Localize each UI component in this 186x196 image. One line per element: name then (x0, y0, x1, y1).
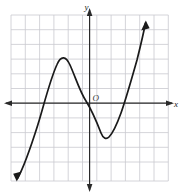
y-axis-label: y (84, 2, 89, 12)
origin-label: O (93, 93, 100, 103)
graph-canvas: x y O (0, 0, 186, 196)
cubic-function-graph-figure: x y O (0, 0, 186, 196)
x-axis-label: x (173, 99, 178, 109)
